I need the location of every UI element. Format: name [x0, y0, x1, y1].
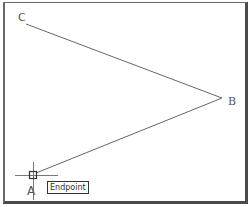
point-label-b: B [228, 96, 236, 107]
point-label-a: A [27, 185, 35, 197]
point-label-c: C [18, 12, 26, 23]
line-b-a[interactable] [36, 98, 222, 173]
snap-tooltip: Endpoint [47, 181, 89, 194]
line-c-b[interactable] [26, 24, 222, 98]
drawing-canvas[interactable] [0, 0, 250, 207]
